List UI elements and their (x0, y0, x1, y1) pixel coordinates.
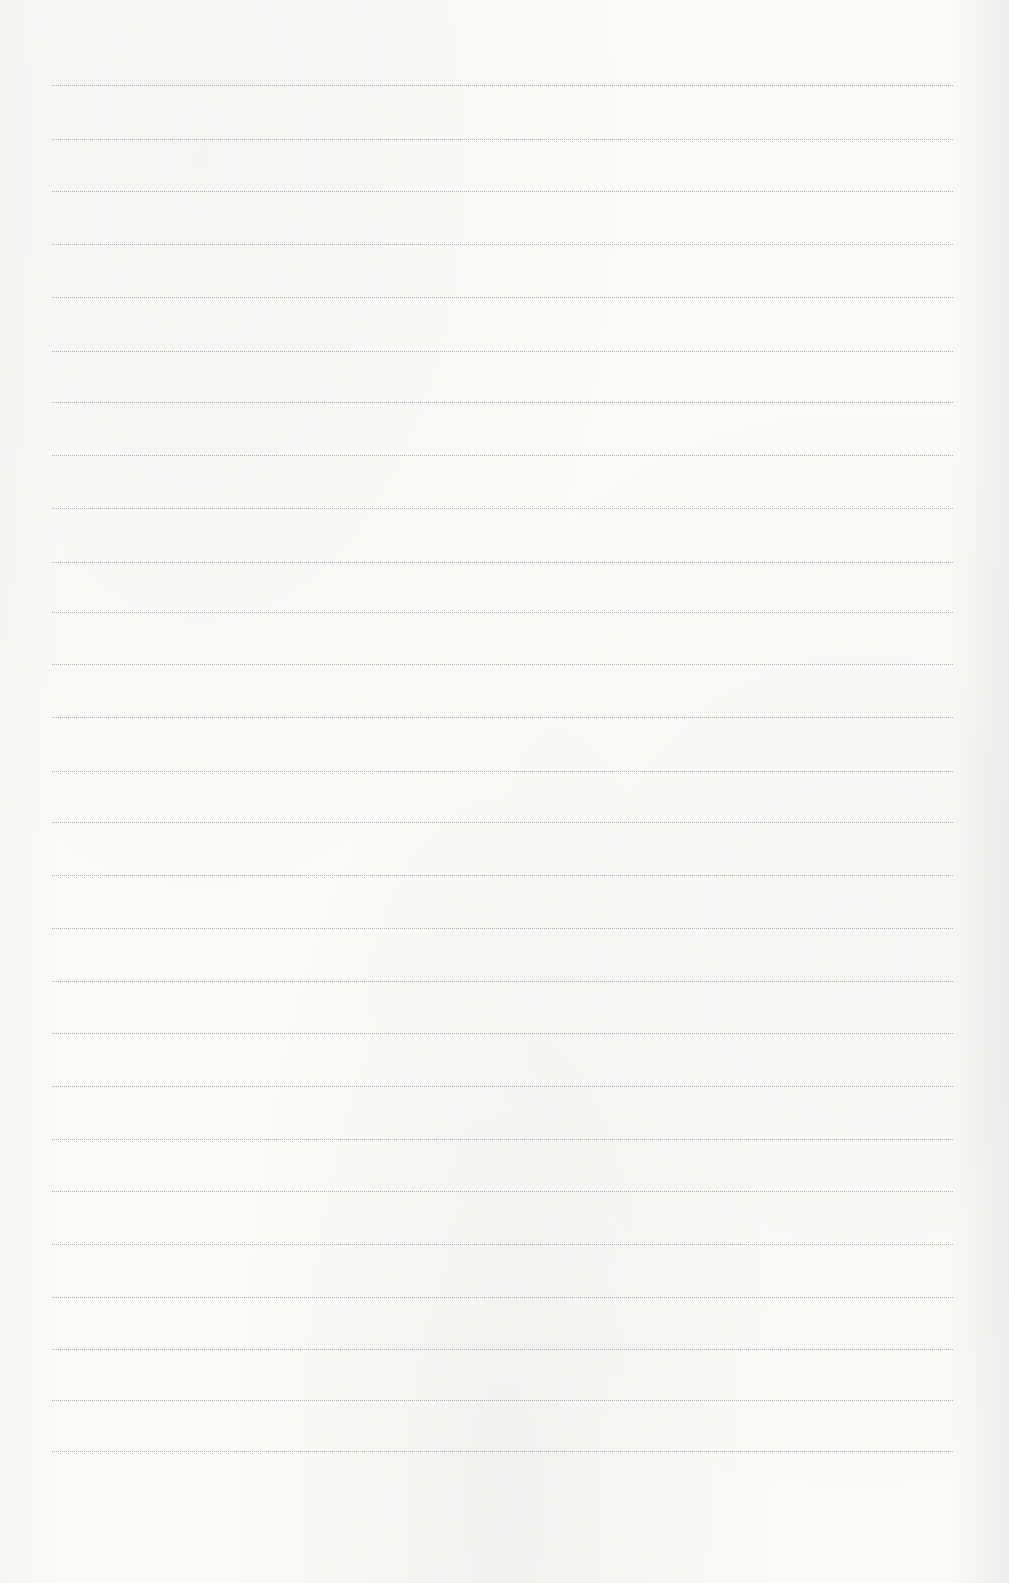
ruled-line (52, 1139, 953, 1140)
ruled-lines (0, 0, 1009, 1583)
ruled-line (52, 508, 953, 509)
ruled-line (52, 1033, 953, 1034)
ruled-line (52, 664, 953, 665)
ruled-line (52, 1451, 953, 1452)
ruled-line (52, 928, 953, 929)
ruled-line (52, 562, 953, 563)
ruled-line (52, 1191, 953, 1192)
ruled-line (52, 822, 953, 823)
ruled-line (52, 612, 953, 613)
ruled-line (52, 297, 953, 298)
ruled-line (52, 875, 953, 876)
ruled-line (52, 1086, 953, 1087)
ruled-line (52, 244, 953, 245)
ruled-line (52, 717, 953, 718)
ruled-line (52, 85, 953, 86)
ruled-line (52, 139, 953, 140)
ruled-line (52, 351, 953, 352)
ruled-line (52, 402, 953, 403)
ruled-line (52, 455, 953, 456)
ruled-line (52, 1244, 953, 1245)
ruled-line (52, 981, 953, 982)
ruled-line (52, 1297, 953, 1298)
ruled-line (52, 191, 953, 192)
lined-paper-sheet (0, 0, 1009, 1583)
ruled-line (52, 1349, 953, 1350)
ruled-line (52, 1400, 953, 1401)
ruled-line (52, 771, 953, 772)
